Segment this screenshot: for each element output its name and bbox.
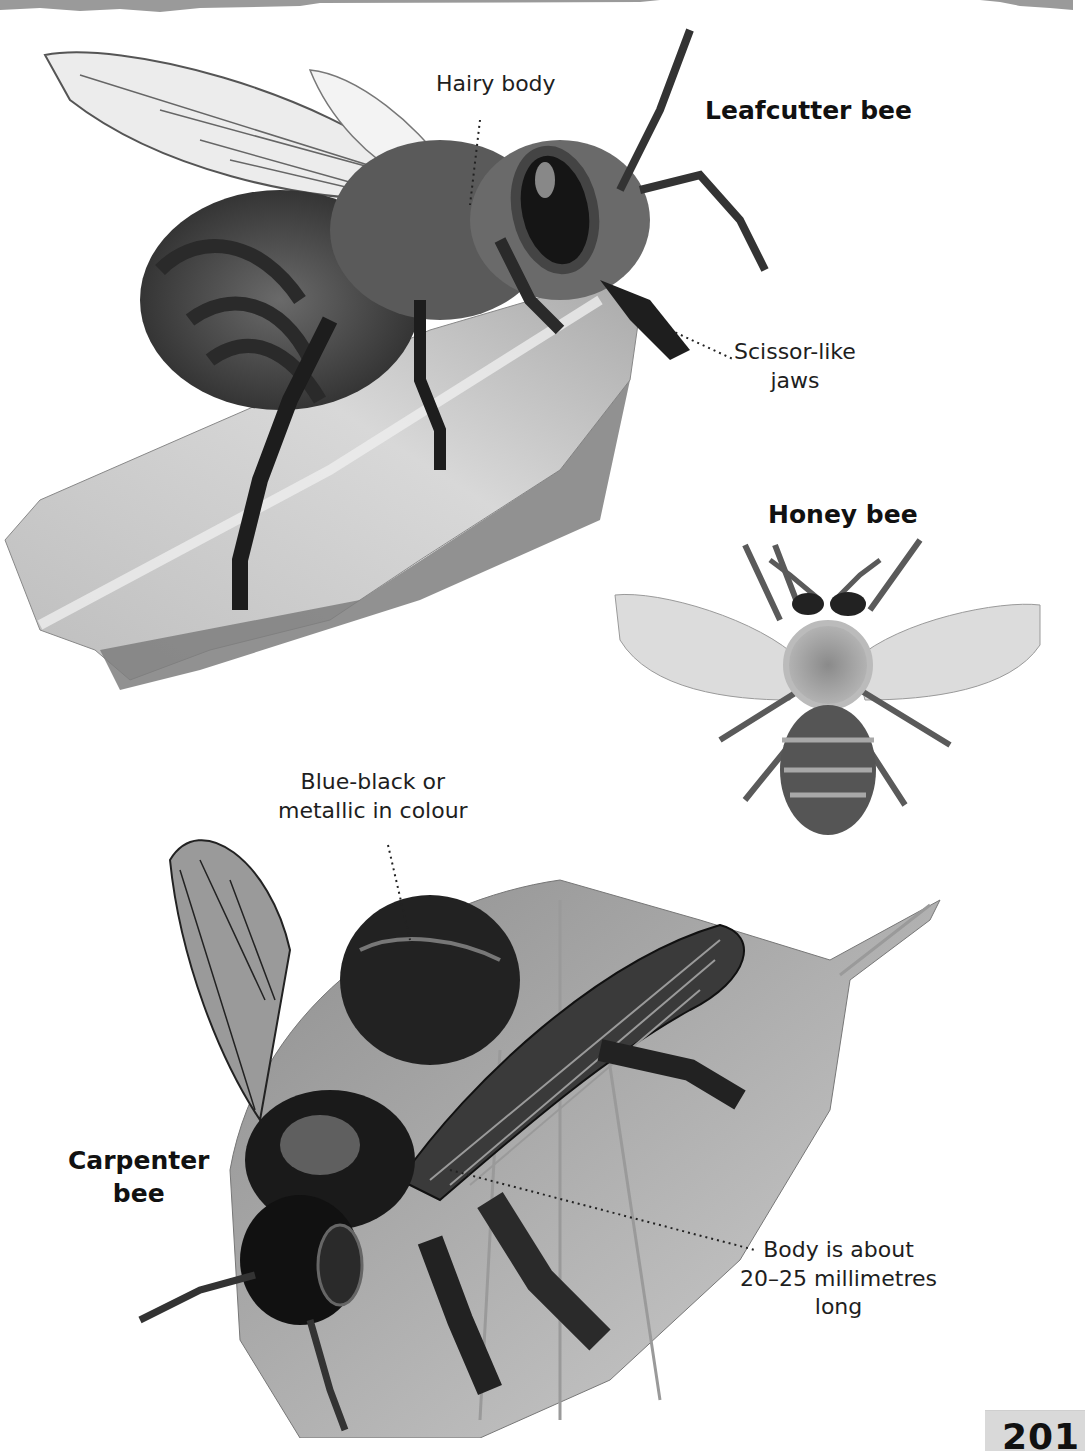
page-number: 201 xyxy=(1002,1416,1080,1455)
annotation-scissor-jaws: Scissor-like jaws xyxy=(734,338,856,395)
annotation-body-length: Body is about 20–25 millimetres long xyxy=(740,1236,937,1322)
annotation-line: metallic in colour xyxy=(278,797,468,826)
annotation-hairy-body: Hairy body xyxy=(436,70,556,99)
annotation-line: Scissor-like xyxy=(734,338,856,367)
species-name-line: bee xyxy=(68,1177,209,1210)
species-title-leafcutter: Leafcutter bee xyxy=(705,94,912,127)
carpenter-bee-illustration xyxy=(140,840,940,1438)
species-title-carpenter: Carpenter bee xyxy=(68,1144,209,1210)
annotation-line: 20–25 millimetres xyxy=(740,1265,937,1294)
honey-bee-illustration xyxy=(615,540,1040,835)
annotation-line: Blue-black or xyxy=(278,768,468,797)
annotation-line: long xyxy=(740,1293,937,1322)
annotation-text: Hairy body xyxy=(436,71,556,96)
species-name: Leafcutter bee xyxy=(705,96,912,125)
species-name: Honey bee xyxy=(768,500,918,529)
annotation-blue-black: Blue-black or metallic in colour xyxy=(278,768,468,825)
species-name-line: Carpenter xyxy=(68,1144,209,1177)
annotation-line: Body is about xyxy=(740,1236,937,1265)
leafcutter-bee-illustration xyxy=(5,30,765,690)
species-title-honey: Honey bee xyxy=(768,498,918,531)
annotation-line: jaws xyxy=(734,367,856,396)
